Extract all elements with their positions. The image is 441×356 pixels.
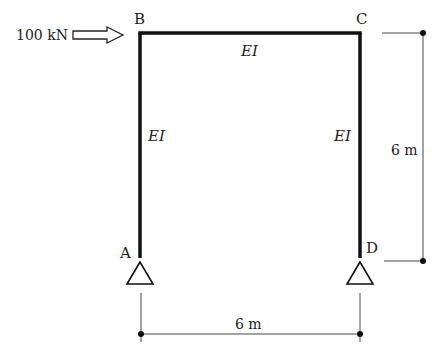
ei-label-bc: EI: [240, 42, 259, 60]
height-dimension-label: 6 m: [391, 142, 418, 158]
node-label-d: D: [366, 239, 378, 257]
pin-support-d-icon: [347, 262, 373, 284]
ei-label-cd: EI: [333, 127, 352, 145]
frame: [138, 33, 361, 258]
pin-support-a-icon: [127, 262, 153, 284]
span-dimension-label: 6 m: [235, 316, 262, 332]
load-arrow-icon: [73, 27, 123, 43]
node-label-c: C: [356, 10, 367, 28]
portal-frame-diagram: B C A D EI EI EI 100 kN 6 m 6 m: [0, 0, 441, 356]
ei-label-ab: EI: [147, 127, 166, 145]
load-label: 100 kN: [16, 27, 68, 43]
node-label-a: A: [119, 244, 131, 262]
node-label-b: B: [134, 10, 145, 28]
